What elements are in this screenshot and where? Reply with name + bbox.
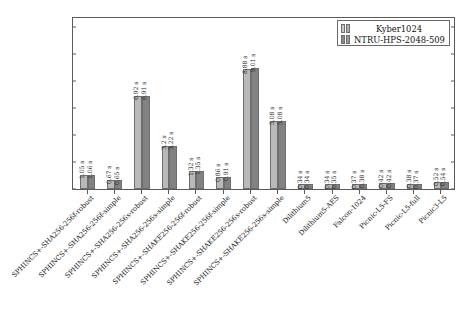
x-tick-mark <box>114 190 115 194</box>
bar-value-label: 8.88 s <box>241 56 248 74</box>
x-tick-mark <box>277 190 278 194</box>
legend-label-ntru-hps-2048-509: NTRU-HPS-2048-509 <box>354 35 445 45</box>
x-tick-mark <box>413 190 414 194</box>
x-tick-mark <box>304 190 305 194</box>
legend-label-kyber1024: Kyber1024 <box>376 24 422 34</box>
x-tick-mark <box>223 190 224 194</box>
bar-value-label: 0.91 s <box>222 163 229 181</box>
bar <box>134 96 142 189</box>
bar-value-label: 0.54 s <box>439 168 446 186</box>
bar-value-label: 0.38 s <box>405 170 412 188</box>
bar <box>251 68 259 189</box>
bar-value-label: 1.35 s <box>194 157 201 175</box>
x-category-label: SPHINCS+-SHA256-256f-simple <box>0 194 122 318</box>
bar-value-label: 0.38 s <box>358 170 365 188</box>
legend-item-ntru-hps-2048-509: NTRU-HPS-2048-509 <box>341 34 446 45</box>
bar-value-label: 0.42 s <box>377 170 384 188</box>
bar-value-label: 0.35 s <box>330 170 337 188</box>
bar <box>243 69 251 189</box>
bar-value-label: 0.34 s <box>323 171 330 189</box>
x-tick-mark <box>250 190 251 194</box>
bar-value-label: 6.92 s <box>132 82 139 100</box>
bar <box>169 146 177 189</box>
bar-value-label: 6.91 s <box>140 82 147 100</box>
bar <box>142 96 150 189</box>
x-tick-mark <box>332 190 333 194</box>
bar-value-label: 0.34 s <box>296 171 303 189</box>
bar-value-label: 0.67 s <box>105 166 112 184</box>
x-tick-mark <box>87 190 88 194</box>
bar-value-label: 5.08 s <box>276 107 283 125</box>
legend-item-kyber1024: Kyber1024 <box>341 23 446 34</box>
bar-value-label: 1.06 s <box>86 161 93 179</box>
bar-value-label: 1.05 s <box>78 161 85 179</box>
bar-chart: 024681012 1.05 s1.06 s0.67 s0.65 s6.92 s… <box>0 0 474 318</box>
x-tick-mark <box>141 190 142 194</box>
bar <box>278 121 286 189</box>
x-tick-mark <box>440 190 441 194</box>
bar-value-label: 0.42 s <box>385 170 392 188</box>
x-tick-mark <box>386 190 387 194</box>
bar-value-label: 0.37 s <box>350 170 357 188</box>
bar-value-label: 0.34 s <box>303 171 310 189</box>
x-tick-mark <box>168 190 169 194</box>
bar-value-label: 0.37 s <box>412 170 419 188</box>
bar-value-label: 3.22 s <box>167 132 174 150</box>
bar-value-label: 5.08 s <box>268 107 275 125</box>
legend-swatch-icon-kyber1024 <box>341 24 352 33</box>
x-tick-mark <box>359 190 360 194</box>
bar-value-label: 9.01 s <box>249 54 256 72</box>
bar-value-label: 1.32 s <box>187 157 194 175</box>
bar <box>270 121 278 189</box>
x-tick-mark <box>195 190 196 194</box>
bar-value-label: 0.86 s <box>214 164 221 182</box>
bar-value-label: 3.2 s <box>160 136 167 150</box>
bar <box>162 146 170 189</box>
bar-value-label: 0.65 s <box>113 166 120 184</box>
legend: Kyber1024 NTRU-HPS-2048-509 <box>337 20 450 46</box>
bar-value-label: 0.52 s <box>432 168 439 186</box>
legend-swatch-icon-ntru-hps-2048-509 <box>341 35 352 44</box>
